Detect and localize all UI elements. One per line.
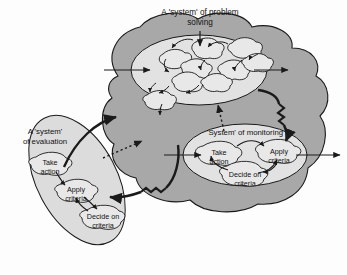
systems-diagram: A 'system' of problem solving 'System' o… — [0, 0, 347, 275]
monitoring-take-action-line2: action — [209, 157, 228, 166]
monitoring-apply-criteria-line1: Apply — [270, 147, 288, 156]
evaluation-decide-line2: criteria — [92, 221, 114, 230]
monitoring-apply-criteria-line2: criteria — [268, 156, 290, 165]
diagram-canvas: A 'system' of problem solving 'System' o… — [0, 0, 347, 275]
problem-solving-title-line2: solving — [187, 18, 213, 27]
monitoring-label: 'System' of monitoring — [207, 128, 283, 137]
monitoring-decide-line1: Decide on — [229, 170, 261, 179]
problem-solving-title-line1: A 'system' of problem — [161, 8, 238, 17]
monitoring-take-action-line1: Take — [211, 148, 226, 157]
evaluation-decide-line1: Decide on — [87, 212, 119, 221]
evaluation-take-action-line1: Take — [42, 158, 57, 167]
monitoring-decide-line2: criteria — [234, 179, 256, 188]
evaluation-label-line1: A 'system' — [28, 127, 63, 136]
evaluation-label-line2: of evaluation — [23, 137, 67, 146]
evaluation-apply-criteria-line2: criteria — [65, 194, 87, 203]
evaluation-take-action-line2: action — [40, 167, 59, 176]
evaluation-apply-criteria-line1: Apply — [67, 185, 85, 194]
